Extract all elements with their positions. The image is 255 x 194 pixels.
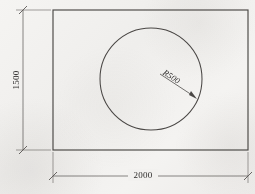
hole-circle xyxy=(100,28,202,130)
radius-callout-group: R500 xyxy=(160,67,197,99)
dimension-width-group: 2000 xyxy=(49,152,252,183)
radius-arrowhead xyxy=(189,91,197,99)
engineering-drawing-canvas: 1500 2000 R500 xyxy=(0,0,255,194)
radius-label: R500 xyxy=(160,67,182,86)
dimension-height-group: 1500 xyxy=(11,6,51,154)
dimension-height-label: 1500 xyxy=(11,70,21,89)
plate-rectangle xyxy=(53,10,248,150)
dimension-width-label: 2000 xyxy=(133,170,152,180)
drawing-sheet: 1500 2000 R500 xyxy=(0,0,255,194)
